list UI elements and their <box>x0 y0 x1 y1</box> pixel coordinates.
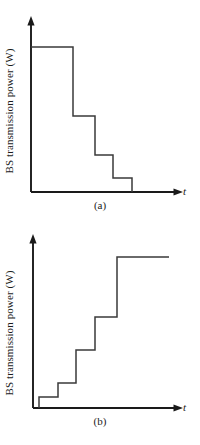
plot-area-a <box>18 0 200 222</box>
x-axis-label-a: t <box>183 185 186 197</box>
x-axis-label-b: t <box>183 401 186 413</box>
y-axis-arrowhead-b <box>29 234 36 244</box>
plot-area-b <box>18 222 200 444</box>
y-axis-label-b: BS transmission power (W) <box>0 222 18 444</box>
step-curve-b <box>39 257 169 408</box>
x-axis-arrowhead-a <box>174 188 184 195</box>
panel-caption-b: (b) <box>0 415 200 427</box>
y-axis-label-a: BS transmission power (W) <box>0 0 18 222</box>
step-curve-a <box>31 47 132 192</box>
y-axis-arrowhead-a <box>27 16 34 26</box>
figure-panel-b: BS transmission power (W) t (b) <box>0 222 200 445</box>
figure-panel-a: BS transmission power (W) t (a) <box>0 0 200 222</box>
panel-caption-a: (a) <box>0 199 200 211</box>
x-axis-arrowhead-b <box>174 404 184 411</box>
